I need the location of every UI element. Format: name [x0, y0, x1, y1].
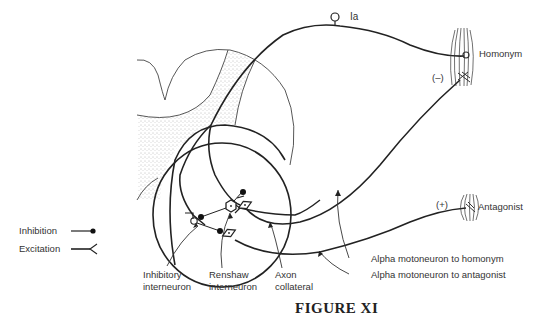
homonym-label: Homonym	[479, 48, 522, 60]
legend-inhibition-label: Inhibition	[19, 225, 57, 237]
inhibitory-interneuron-label-2: interneuron	[143, 281, 191, 293]
alpha-motoneuron-antagonist-axon	[235, 208, 466, 254]
alpha-homonym-label: Alpha motoneuron to homonym	[371, 253, 504, 265]
inhibitory-interneuron-label-1: Inhibitory	[143, 269, 182, 281]
interneuron-cells	[185, 189, 253, 240]
legend-excitation-label: Excitation	[19, 243, 60, 255]
axon-collateral-label-1: Axon	[275, 269, 297, 281]
ia-label: Ia	[350, 11, 358, 23]
legend-symbols	[71, 228, 97, 254]
figure-xi-diagram: Ia Homonym (–) (+) Antagonist Alpha moto…	[0, 0, 547, 320]
figure-title: FIGURE XI	[295, 300, 378, 317]
label-pointer-lines	[167, 190, 349, 274]
antagonist-label: Antagonist	[478, 201, 523, 213]
minus-sign-label: (–)	[432, 72, 444, 84]
alpha-motoneuron-homonym-axon	[243, 80, 460, 224]
axon-collateral-label-2: collateral	[275, 281, 313, 293]
dorsal-root-ganglion-icon	[331, 13, 339, 21]
alpha-antagonist-label: Alpha motoneuron to antagonist	[371, 269, 506, 281]
renshaw-interneuron-label-1: Renshaw	[209, 269, 249, 281]
axon-collateral-fiber	[240, 200, 320, 215]
pointer-arrowheads	[193, 190, 341, 257]
homonym-muscle-icon	[451, 28, 474, 86]
renshaw-interneuron-label-2: interneuron	[209, 281, 257, 293]
stippled-grey-matter	[138, 50, 255, 200]
plus-sign-label: (+)	[436, 199, 448, 211]
